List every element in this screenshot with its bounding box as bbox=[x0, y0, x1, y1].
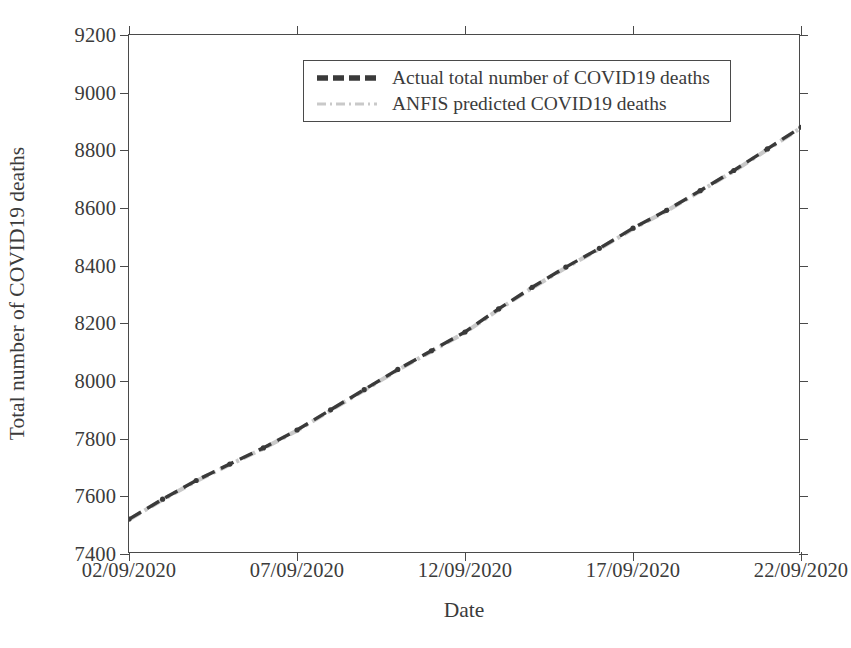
data-point-marker bbox=[160, 497, 165, 502]
data-point-marker bbox=[563, 265, 568, 270]
y-tick-mark bbox=[120, 35, 129, 36]
data-point-marker bbox=[496, 306, 501, 311]
y-tick-label: 8800 bbox=[75, 139, 116, 162]
x-tick-mark-top bbox=[465, 26, 466, 35]
x-tick-label: 22/09/2020 bbox=[754, 559, 848, 582]
data-point-marker bbox=[261, 445, 266, 450]
y-tick-mark bbox=[120, 496, 129, 497]
data-point-marker bbox=[294, 427, 299, 432]
chart-legend: Actual total number of COVID19 deaths AN… bbox=[303, 60, 731, 122]
y-tick-label: 8000 bbox=[75, 370, 116, 393]
data-point-marker bbox=[362, 387, 367, 392]
data-point-marker bbox=[530, 285, 535, 290]
data-point-marker bbox=[328, 407, 333, 412]
data-point-marker bbox=[597, 246, 602, 251]
y-tick-label: 8200 bbox=[75, 312, 116, 335]
legend-label-predicted: ANFIS predicted COVID19 deaths bbox=[392, 93, 667, 115]
y-axis-title: Total number of COVID19 deaths bbox=[0, 34, 34, 553]
y-tick-mark-right bbox=[799, 93, 808, 94]
data-point-marker bbox=[698, 188, 703, 193]
y-tick-mark bbox=[120, 554, 129, 555]
y-tick-mark-right bbox=[799, 150, 808, 151]
y-tick-mark-right bbox=[799, 266, 808, 267]
y-tick-mark bbox=[120, 150, 129, 151]
series-line-predicted bbox=[129, 128, 801, 520]
data-point-marker bbox=[731, 168, 736, 173]
y-tick-label: 9200 bbox=[75, 24, 116, 47]
legend-label-actual: Actual total number of COVID19 deaths bbox=[392, 67, 710, 89]
data-point-marker bbox=[630, 226, 635, 231]
y-tick-label: 7800 bbox=[75, 427, 116, 450]
legend-entry-actual: Actual total number of COVID19 deaths bbox=[316, 65, 710, 91]
y-tick-label: 8400 bbox=[75, 254, 116, 277]
data-point-marker bbox=[798, 125, 801, 130]
x-tick-mark-top bbox=[297, 26, 298, 35]
data-point-marker bbox=[395, 367, 400, 372]
data-point-marker bbox=[429, 348, 434, 353]
y-tick-label: 9000 bbox=[75, 81, 116, 104]
data-point-marker bbox=[765, 146, 770, 151]
y-tick-mark-right bbox=[799, 439, 808, 440]
y-tick-mark-right bbox=[799, 35, 808, 36]
y-tick-mark bbox=[120, 208, 129, 209]
y-tick-mark-right bbox=[799, 323, 808, 324]
data-point-marker bbox=[227, 461, 232, 466]
y-tick-mark-right bbox=[799, 381, 808, 382]
y-tick-mark bbox=[120, 266, 129, 267]
legend-entry-predicted: ANFIS predicted COVID19 deaths bbox=[316, 91, 667, 117]
y-tick-mark bbox=[120, 381, 129, 382]
data-point-marker bbox=[664, 208, 669, 213]
y-tick-mark bbox=[120, 93, 129, 94]
x-tick-mark-top bbox=[801, 26, 802, 35]
x-tick-label: 02/09/2020 bbox=[82, 559, 176, 582]
series-line-actual bbox=[129, 127, 801, 519]
legend-line-sample-predicted bbox=[316, 97, 378, 111]
data-point-marker bbox=[462, 329, 467, 334]
data-point-marker bbox=[194, 478, 199, 483]
chart-figure: Total number of COVID19 deaths 740076007… bbox=[0, 0, 851, 648]
x-tick-label: 12/09/2020 bbox=[418, 559, 512, 582]
y-tick-mark bbox=[120, 323, 129, 324]
y-tick-mark-right bbox=[799, 496, 808, 497]
y-tick-label: 8600 bbox=[75, 197, 116, 220]
y-tick-mark-right bbox=[799, 208, 808, 209]
x-axis-title: Date bbox=[128, 598, 800, 623]
y-tick-label: 7600 bbox=[75, 485, 116, 508]
x-tick-mark-top bbox=[633, 26, 634, 35]
x-tick-mark-top bbox=[129, 26, 130, 35]
legend-line-sample-actual bbox=[316, 71, 378, 85]
x-tick-label: 17/09/2020 bbox=[586, 559, 680, 582]
y-tick-mark bbox=[120, 439, 129, 440]
x-tick-label: 07/09/2020 bbox=[250, 559, 344, 582]
